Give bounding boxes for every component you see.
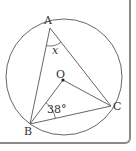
angle-label-x: x [52,44,59,57]
geometry-diagram: A B C O x 38° [0,0,136,151]
label-B: B [24,125,32,138]
segment-AC [50,28,111,106]
label-A: A [43,14,53,27]
label-C: C [113,100,121,113]
segment-BC [30,106,111,124]
label-O: O [56,68,65,81]
angle-label-38: 38° [47,103,67,116]
segment-OC [63,80,111,106]
